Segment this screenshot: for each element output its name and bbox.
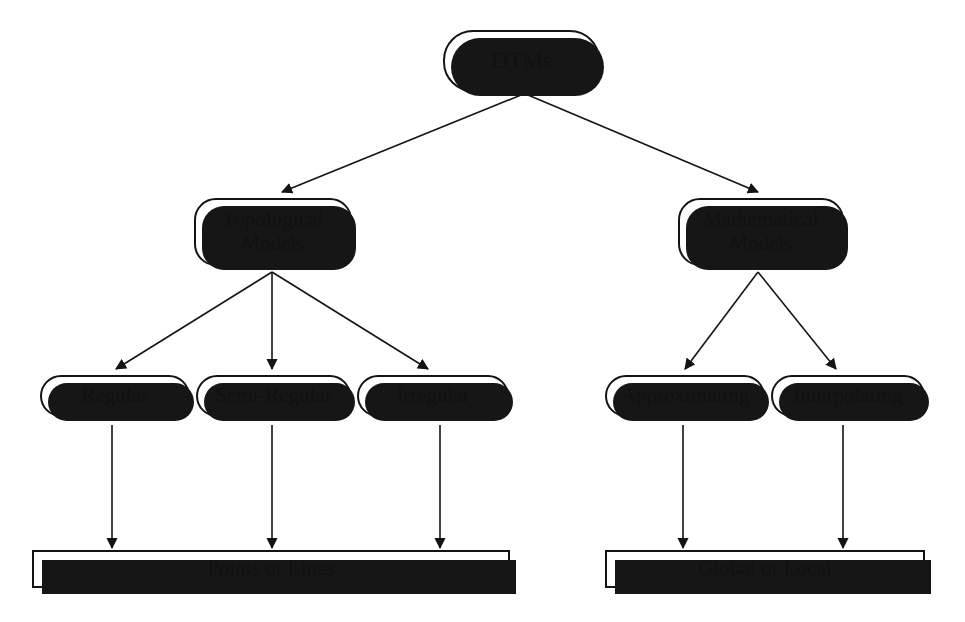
edge-dtms-to-mathematical xyxy=(528,95,758,192)
node-topological-models-label: Topological Models xyxy=(217,208,329,255)
node-mathematical-models[interactable]: Mathematical Models xyxy=(678,198,844,266)
node-interpolating-label: Interpolating xyxy=(788,384,908,408)
node-global-or-local-label: Global or Local xyxy=(693,557,838,581)
node-points-or-lines[interactable]: Points or Lines xyxy=(32,550,510,588)
dtm-classification-diagram: DTMs Topological Models Mathematical Mod… xyxy=(0,0,965,622)
edge-mathematical-to-approximating xyxy=(685,272,758,369)
node-topological-models[interactable]: Topological Models xyxy=(194,198,352,266)
node-mathematical-models-label: Mathematical Models xyxy=(697,208,824,255)
node-semi-regular[interactable]: Semi-Regular xyxy=(196,375,351,417)
node-approximating[interactable]: Approximating xyxy=(605,375,765,417)
node-interpolating[interactable]: Interpolating xyxy=(771,375,925,417)
node-points-or-lines-label: Points or Lines xyxy=(201,557,340,581)
edge-mathematical-to-interpolating xyxy=(758,272,836,369)
edge-dtms-to-topological xyxy=(282,95,521,192)
node-regular-label: Regular xyxy=(76,384,154,408)
node-dtms[interactable]: DTMs xyxy=(443,30,600,92)
edge-topological-to-irregular xyxy=(272,272,428,369)
node-approximating-label: Approximating xyxy=(615,384,755,408)
node-global-or-local[interactable]: Global or Local xyxy=(605,550,925,588)
node-irregular-label: Irregular xyxy=(390,384,475,408)
node-regular[interactable]: Regular xyxy=(40,375,190,417)
edge-topological-to-regular xyxy=(116,272,272,369)
node-dtms-label: DTMs xyxy=(485,48,557,74)
node-irregular[interactable]: Irregular xyxy=(357,375,509,417)
node-semi-regular-label: Semi-Regular xyxy=(209,384,338,408)
